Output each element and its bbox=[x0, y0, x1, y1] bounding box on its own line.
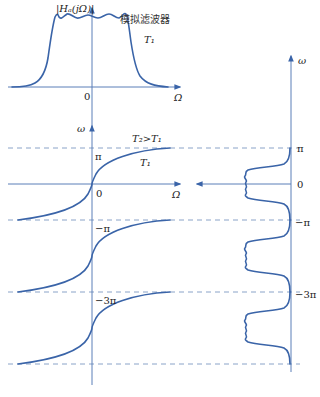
curve-label-t1: T₁ bbox=[140, 157, 151, 168]
top-y-label: |Hₐ(jΩ)| bbox=[56, 3, 94, 15]
digital-response-plot: ω π 0 −π −3π bbox=[197, 55, 317, 372]
mapping-curve-branch-neg4pi bbox=[18, 292, 170, 364]
mapping-x-label: Ω bbox=[171, 189, 180, 200]
top-curve-label-t1: T₁ bbox=[144, 34, 155, 45]
top-magnitude-plot: |Hₐ(jΩ)| 模拟滤波器 T₁ 0 Ω bbox=[8, 3, 182, 128]
mapping-curve-branch-neg2pi bbox=[18, 220, 170, 292]
curve-label-t2-gt-t1: T₂>T₁ bbox=[132, 133, 162, 144]
bilinear-mapping-diagram: |Hₐ(jΩ)| 模拟滤波器 T₁ 0 Ω ω T₂>T₁ T₁ π 0 Ω −… bbox=[0, 0, 320, 397]
level-dashed-lines bbox=[8, 148, 300, 364]
right-pi-label: π bbox=[297, 143, 304, 154]
top-x-label: Ω bbox=[173, 92, 182, 103]
right-neg-3pi-label: −3π bbox=[295, 289, 317, 300]
right-zero-label: 0 bbox=[297, 179, 303, 190]
filter-title: 模拟滤波器 bbox=[120, 13, 170, 25]
digital-response-period-neg2pi bbox=[245, 220, 290, 292]
top-origin-label: 0 bbox=[84, 91, 90, 102]
right-y-label: ω bbox=[298, 55, 306, 66]
mapping-y-label: ω bbox=[77, 123, 85, 134]
mapping-origin-label: 0 bbox=[96, 188, 102, 199]
digital-response-period-neg4pi bbox=[245, 292, 290, 364]
right-neg-pi-label: −π bbox=[295, 217, 310, 228]
frequency-mapping-plot: ω T₂>T₁ T₁ π 0 Ω −π −3π bbox=[8, 123, 180, 385]
neg-3pi-label: −3π bbox=[95, 295, 117, 306]
neg-pi-label: −π bbox=[95, 223, 110, 234]
pi-label: π bbox=[95, 151, 102, 162]
